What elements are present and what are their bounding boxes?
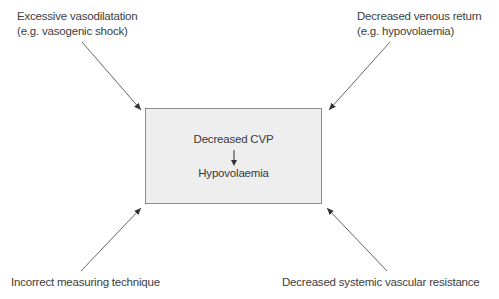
- cause-top-left-line1: Excessive vasodilatation: [17, 9, 138, 24]
- arrow-bottom-right: [327, 208, 387, 271]
- cause-top-left-line2: (e.g. vasogenic shock): [17, 24, 138, 39]
- cause-top-left: Excessive vasodilatation (e.g. vasogenic…: [17, 9, 138, 39]
- cause-bottom-right-line1: Decreased systemic vascular resistance: [282, 275, 480, 290]
- center-box-top-text: Decreased CVP: [146, 133, 321, 145]
- cause-bottom-left: Incorrect measuring technique: [11, 275, 160, 290]
- cause-top-right: Decreased venous return (e.g. hypovolaem…: [357, 9, 482, 39]
- cause-top-right-line1: Decreased venous return: [357, 9, 482, 24]
- cause-bottom-right: Decreased systemic vascular resistance: [282, 275, 480, 290]
- down-arrow-icon: [229, 149, 239, 167]
- arrow-top-right: [329, 42, 390, 110]
- arrow-bottom-left: [81, 208, 141, 271]
- center-box: Decreased CVP Hypovolaemia: [145, 108, 322, 204]
- arrow-top-left: [82, 42, 141, 110]
- cause-top-right-line2: (e.g. hypovolaemia): [357, 24, 482, 39]
- cause-bottom-left-line1: Incorrect measuring technique: [11, 275, 160, 290]
- center-box-bottom-text: Hypovolaemia: [146, 167, 321, 179]
